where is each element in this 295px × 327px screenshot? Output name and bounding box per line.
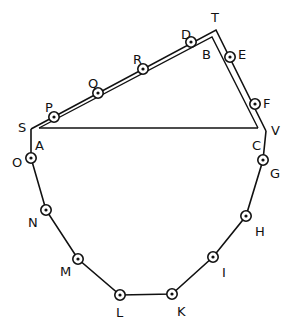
point-labels: PQRDEFONMLKIHGSATBVC xyxy=(12,10,280,320)
label-g: G xyxy=(270,166,280,181)
point-marker-e xyxy=(225,52,235,62)
point-marker-f xyxy=(250,99,260,109)
label-q: Q xyxy=(88,76,98,91)
label-o: O xyxy=(12,155,22,170)
point-marker-n xyxy=(41,205,51,215)
label-e: E xyxy=(238,47,246,62)
label-p: P xyxy=(45,100,53,115)
label-h: H xyxy=(255,224,265,239)
label-f: F xyxy=(263,96,270,111)
label-c: C xyxy=(252,138,261,153)
label-i: I xyxy=(222,265,226,280)
label-b: B xyxy=(202,47,211,62)
label-k: K xyxy=(177,304,186,319)
label-d: D xyxy=(181,27,191,42)
point-marker-m xyxy=(73,254,83,264)
outer-edge-line xyxy=(31,30,266,131)
diagram-canvas: PQRDEFONMLKIHGSATBVC xyxy=(0,0,295,327)
label-s: S xyxy=(18,120,26,135)
label-t: T xyxy=(210,10,219,25)
point-marker-h xyxy=(241,211,251,221)
point-marker-l xyxy=(115,290,125,300)
point-marker-k xyxy=(167,289,177,299)
inner-edge-line xyxy=(39,37,258,128)
label-m: M xyxy=(60,264,71,279)
point-marker-i xyxy=(208,252,218,262)
label-n: N xyxy=(28,215,38,230)
label-v: V xyxy=(271,123,280,138)
point-marker-o xyxy=(26,153,36,163)
label-r: R xyxy=(133,52,142,67)
point-marker-g xyxy=(258,155,268,165)
label-a: A xyxy=(35,138,44,153)
polygon-diagram: PQRDEFONMLKIHGSATBVC xyxy=(0,0,295,327)
label-l: L xyxy=(116,305,124,320)
